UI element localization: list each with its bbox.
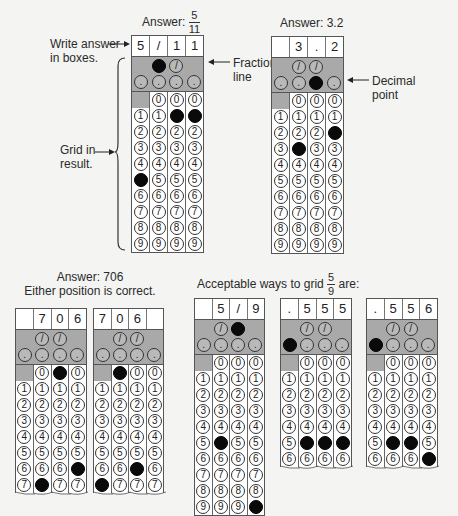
- digit-bubble-6[interactable]: 6: [282, 452, 296, 466]
- decimal-bubble[interactable]: .: [214, 338, 228, 352]
- digit-bubble-5[interactable]: 5: [422, 436, 436, 450]
- slash-bubble[interactable]: /: [292, 60, 306, 74]
- digit-bubble-2[interactable]: 2: [310, 126, 324, 140]
- digit-bubble-4[interactable]: 4: [53, 430, 67, 444]
- digit-bubble-3[interactable]: 3: [95, 414, 109, 428]
- digit-bubble-3[interactable]: 3: [196, 404, 210, 418]
- decimal-bubble[interactable]: .: [169, 75, 183, 89]
- digit-bubble-4[interactable]: 4: [113, 430, 127, 444]
- slash-bubble[interactable]: /: [404, 322, 418, 336]
- digit-bubble-7[interactable]: 7: [196, 468, 210, 482]
- decimal-bubble[interactable]: .: [404, 338, 418, 352]
- digit-bubble-6[interactable]: 6: [336, 452, 350, 466]
- answer-box[interactable]: 5: [317, 299, 335, 319]
- digit-bubble-3[interactable]: 3: [130, 414, 144, 428]
- decimal-bubble[interactable]: .: [327, 76, 341, 90]
- digit-bubble-8[interactable]: 8: [249, 484, 263, 498]
- decimal-bubble[interactable]: .: [96, 348, 110, 362]
- digit-bubble-6[interactable]: 6: [35, 462, 49, 476]
- digit-bubble-6[interactable]: 6: [386, 452, 400, 466]
- digit-bubble-5[interactable]: 5: [318, 436, 332, 450]
- digit-bubble-7[interactable]: 7: [134, 205, 148, 219]
- digit-bubble-5[interactable]: 5: [188, 173, 202, 187]
- digit-bubble-7[interactable]: 7: [130, 478, 144, 492]
- digit-bubble-8[interactable]: 8: [214, 484, 228, 498]
- decimal-bubble[interactable]: .: [300, 338, 314, 352]
- digit-bubble-5[interactable]: 5: [404, 436, 418, 450]
- digit-bubble-1[interactable]: 1: [292, 110, 306, 124]
- digit-bubble-3[interactable]: 3: [282, 404, 296, 418]
- digit-bubble-7[interactable]: 7: [310, 206, 324, 220]
- digit-bubble-5[interactable]: 5: [170, 173, 184, 187]
- digit-bubble-3[interactable]: 3: [249, 404, 263, 418]
- digit-bubble-9[interactable]: 9: [292, 238, 306, 252]
- digit-bubble-7[interactable]: 7: [328, 206, 342, 220]
- answer-box[interactable]: 0: [52, 309, 70, 329]
- digit-bubble-5[interactable]: 5: [231, 436, 245, 450]
- digit-bubble-4[interactable]: 4: [214, 420, 228, 434]
- digit-bubble-5[interactable]: 5: [53, 446, 67, 460]
- digit-bubble-0[interactable]: 0: [422, 356, 436, 370]
- digit-bubble-5[interactable]: 5: [113, 446, 127, 460]
- answer-box[interactable]: .: [281, 299, 299, 319]
- digit-bubble-1[interactable]: 1: [368, 372, 382, 386]
- decimal-bubble[interactable]: .: [274, 76, 288, 90]
- digit-bubble-0[interactable]: 0: [328, 94, 342, 108]
- decimal-bubble[interactable]: .: [70, 348, 84, 362]
- digit-bubble-6[interactable]: 6: [231, 452, 245, 466]
- digit-bubble-3[interactable]: 3: [134, 141, 148, 155]
- digit-bubble-0[interactable]: 0: [292, 94, 306, 108]
- digit-bubble-0[interactable]: 0: [386, 356, 400, 370]
- digit-bubble-3[interactable]: 3: [113, 414, 127, 428]
- digit-bubble-2[interactable]: 2: [71, 398, 85, 412]
- digit-bubble-2[interactable]: 2: [368, 388, 382, 402]
- digit-bubble-6[interactable]: 6: [134, 189, 148, 203]
- digit-bubble-5[interactable]: 5: [95, 446, 109, 460]
- answer-box[interactable]: 5: [299, 299, 317, 319]
- digit-bubble-9[interactable]: 9: [188, 237, 202, 251]
- digit-bubble-2[interactable]: 2: [274, 126, 288, 140]
- digit-bubble-1[interactable]: 1: [170, 109, 184, 123]
- answer-box[interactable]: 5: [403, 299, 421, 319]
- digit-bubble-0[interactable]: 0: [170, 93, 184, 107]
- digit-bubble-3[interactable]: 3: [328, 142, 342, 156]
- slash-bubble[interactable]: /: [300, 322, 314, 336]
- digit-bubble-1[interactable]: 1: [214, 372, 228, 386]
- digit-bubble-0[interactable]: 0: [188, 93, 202, 107]
- digit-bubble-0[interactable]: 0: [300, 356, 314, 370]
- digit-bubble-1[interactable]: 1: [95, 382, 109, 396]
- digit-bubble-7[interactable]: 7: [148, 478, 162, 492]
- digit-bubble-7[interactable]: 7: [292, 206, 306, 220]
- digit-bubble-8[interactable]: 8: [170, 221, 184, 235]
- digit-bubble-0[interactable]: 0: [53, 366, 67, 380]
- digit-bubble-3[interactable]: 3: [35, 414, 49, 428]
- slash-bubble[interactable]: /: [231, 322, 245, 336]
- digit-bubble-7[interactable]: 7: [35, 478, 49, 492]
- digit-bubble-4[interactable]: 4: [300, 420, 314, 434]
- digit-bubble-2[interactable]: 2: [95, 398, 109, 412]
- slash-bubble[interactable]: /: [318, 322, 332, 336]
- digit-bubble-0[interactable]: 0: [113, 366, 127, 380]
- digit-bubble-2[interactable]: 2: [231, 388, 245, 402]
- decimal-bubble[interactable]: .: [335, 338, 349, 352]
- digit-bubble-8[interactable]: 8: [292, 222, 306, 236]
- digit-bubble-0[interactable]: 0: [249, 356, 263, 370]
- digit-bubble-8[interactable]: 8: [310, 222, 324, 236]
- digit-bubble-9[interactable]: 9: [134, 237, 148, 251]
- digit-bubble-4[interactable]: 4: [152, 157, 166, 171]
- slash-bubble[interactable]: /: [309, 60, 323, 74]
- slash-bubble[interactable]: /: [130, 332, 144, 346]
- answer-box[interactable]: 0: [112, 309, 130, 329]
- digit-bubble-3[interactable]: 3: [310, 142, 324, 156]
- digit-bubble-2[interactable]: 2: [134, 125, 148, 139]
- digit-bubble-2[interactable]: 2: [336, 388, 350, 402]
- digit-bubble-6[interactable]: 6: [404, 452, 418, 466]
- digit-bubble-4[interactable]: 4: [336, 420, 350, 434]
- digit-bubble-1[interactable]: 1: [35, 382, 49, 396]
- answer-box[interactable]: 5: [385, 299, 403, 319]
- decimal-bubble[interactable]: .: [18, 348, 32, 362]
- digit-bubble-4[interactable]: 4: [134, 157, 148, 171]
- digit-bubble-1[interactable]: 1: [310, 110, 324, 124]
- digit-bubble-0[interactable]: 0: [71, 366, 85, 380]
- digit-bubble-3[interactable]: 3: [214, 404, 228, 418]
